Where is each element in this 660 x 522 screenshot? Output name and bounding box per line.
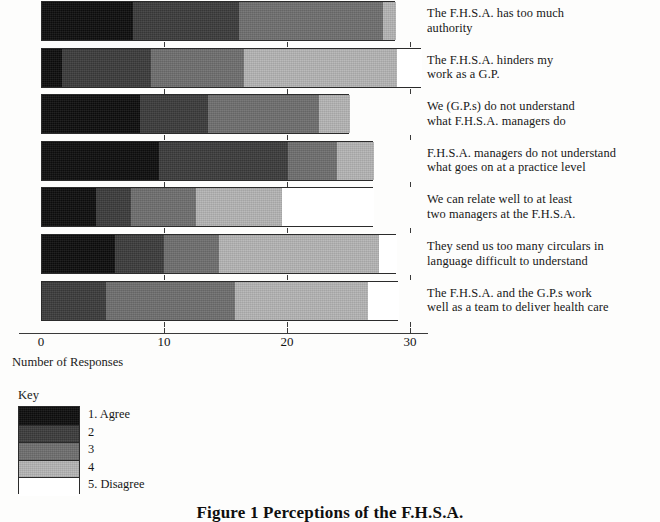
axis-tick — [164, 42, 165, 47]
statement-line: The F.H.S.A. and the G.P.s work — [427, 286, 660, 301]
key-swatch-1 — [19, 407, 79, 425]
axis-tick — [287, 275, 288, 280]
axis-tick — [410, 89, 411, 94]
bar-segment-3 — [208, 95, 319, 133]
axis-tick — [410, 322, 411, 327]
axis-tick — [410, 328, 411, 334]
statement-line: We can relate well to at least — [427, 192, 660, 207]
axis-tick — [287, 135, 288, 140]
stacked-bar — [41, 48, 421, 88]
statement-line: what goes on at a practice level — [427, 160, 660, 175]
statement-label: The F.H.S.A. and the G.P.s workwell as a… — [427, 286, 660, 315]
bar-row — [41, 48, 421, 88]
stacked-bar — [41, 141, 373, 181]
axis-tick-label: 0 — [26, 334, 56, 350]
axis-tick — [287, 89, 288, 94]
bar-segment-3 — [288, 142, 337, 180]
bar-segment-4 — [337, 142, 374, 180]
stacked-bar — [41, 234, 396, 274]
bar-segment-3 — [151, 49, 243, 87]
axis-tick — [164, 135, 165, 140]
axis-tick — [287, 228, 288, 233]
key-label-1: 1. Agree — [88, 406, 130, 424]
bar-segment-2 — [42, 282, 106, 320]
axis-tick-label: 20 — [272, 334, 302, 350]
statement-line: authority — [427, 21, 660, 36]
bar-segment-1 — [42, 49, 62, 87]
bar-segment-1 — [42, 142, 159, 180]
axis-tick — [164, 228, 165, 233]
figure-perceptions-fhsa: 0102030 Number of Responses Key 1. Agree… — [0, 0, 660, 522]
stacked-bar — [41, 187, 373, 227]
axis-tick — [164, 89, 165, 94]
bar-segment-2 — [159, 142, 288, 180]
statement-line: two managers at the F.H.S.A. — [427, 207, 660, 222]
key-label-5: 5. Disagree — [88, 476, 144, 494]
statement-label: The F.H.S.A. has too muchauthority — [427, 6, 660, 35]
statement-label: F.H.S.A. managers do not understandwhat … — [427, 146, 660, 175]
x-axis-title: Number of Responses — [12, 355, 123, 370]
statement-label: They send us too many circulars inlangua… — [427, 239, 660, 268]
bar-segment-4 — [244, 49, 398, 87]
axis-tick — [164, 182, 165, 187]
bar-segment-2 — [115, 235, 164, 273]
key-swatch-4 — [19, 460, 79, 479]
key-label-4: 4 — [88, 459, 94, 477]
figure-caption: Figure 1 Perceptions of the F.H.S.A. — [0, 503, 660, 522]
key-swatch-2 — [19, 425, 79, 444]
stacked-bar-chart — [41, 0, 421, 330]
bar-row — [41, 141, 421, 181]
axis-tick — [287, 328, 288, 334]
statement-label: The F.H.S.A. hinders mywork as a G.P. — [427, 53, 660, 82]
bar-segment-5 — [379, 235, 397, 273]
axis-tick — [410, 275, 411, 280]
bar-segment-1 — [42, 2, 133, 40]
bar-row — [41, 1, 421, 41]
bar-row — [41, 187, 421, 227]
bar-segment-1 — [42, 235, 115, 273]
stacked-bar — [41, 94, 349, 134]
axis-tick-label: 30 — [395, 334, 425, 350]
statement-line: work as a G.P. — [427, 67, 660, 82]
key-swatch-box — [18, 406, 80, 494]
bar-row — [41, 94, 421, 134]
bar-segment-4 — [235, 282, 368, 320]
bar-segment-5 — [282, 188, 374, 226]
bar-segment-4 — [383, 2, 397, 40]
axis-tick — [410, 182, 411, 187]
axis-tick — [287, 182, 288, 187]
bar-segment-4 — [219, 235, 379, 273]
bar-segment-3 — [239, 2, 383, 40]
bar-segment-1 — [42, 188, 96, 226]
stacked-bar — [41, 281, 398, 321]
bar-segment-3 — [106, 282, 235, 320]
bar-segment-5 — [368, 282, 399, 320]
key-swatch-3 — [19, 442, 79, 461]
statement-line: F.H.S.A. managers do not understand — [427, 146, 660, 161]
bar-segment-5 — [397, 49, 422, 87]
key-label-2: 2 — [88, 424, 94, 442]
key-swatch-5 — [19, 477, 79, 496]
key-label-3: 3 — [88, 441, 94, 459]
bar-row — [41, 281, 421, 321]
statement-line: what F.H.S.A. managers do — [427, 114, 660, 129]
statement-line: well as a team to deliver health care — [427, 300, 660, 315]
bar-segment-3 — [131, 188, 196, 226]
axis-tick — [287, 42, 288, 47]
axis-tick — [410, 135, 411, 140]
statement-label: We (G.P.s) do not understandwhat F.H.S.A… — [427, 99, 660, 128]
bar-segment-2 — [62, 49, 152, 87]
statement-line: The F.H.S.A. hinders my — [427, 53, 660, 68]
axis-tick — [410, 228, 411, 233]
bar-segment-2 — [133, 2, 239, 40]
axis-tick — [164, 322, 165, 327]
bar-segment-4 — [196, 188, 282, 226]
x-axis-line — [19, 333, 428, 334]
bar-row — [41, 234, 421, 274]
statement-line: They send us too many circulars in — [427, 239, 660, 254]
bar-segment-4 — [319, 95, 350, 133]
bar-segment-3 — [164, 235, 219, 273]
axis-tick — [164, 328, 165, 334]
axis-tick — [410, 42, 411, 47]
key-title: Key — [18, 388, 39, 403]
